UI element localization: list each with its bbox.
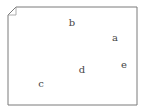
point-label-b: b	[69, 18, 75, 28]
point-label-e: e	[121, 60, 127, 70]
point-label-a: a	[112, 33, 118, 43]
point-label-d: d	[79, 65, 85, 75]
point-label-c: c	[38, 79, 44, 89]
